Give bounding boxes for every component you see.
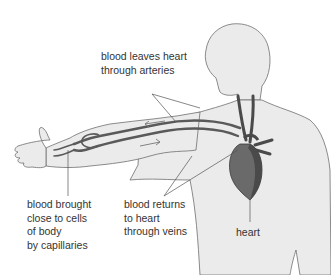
label-veins: blood returns to heart through veins xyxy=(124,198,187,239)
label-heart: heart xyxy=(236,226,260,240)
label-arteries: blood leaves heart through arteries xyxy=(101,50,187,77)
label-capillaries: blood brought close to cells of body by … xyxy=(27,198,91,252)
leader-arteries-1 xyxy=(152,94,200,108)
